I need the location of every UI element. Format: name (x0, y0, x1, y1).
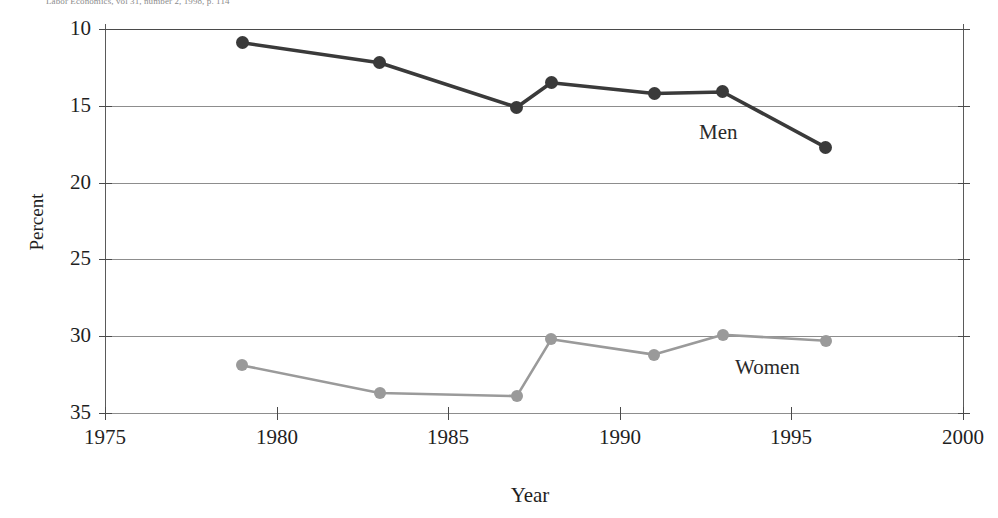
x-tick-mark (448, 407, 449, 420)
y-tick-mark-right (958, 259, 970, 260)
series-annotation-men: Men (699, 121, 738, 144)
y-tick-label: 25 (51, 248, 91, 269)
source-caption: Labor Economics, vol 31, number 2, 1998,… (46, 0, 230, 6)
y-tick-mark (99, 106, 112, 107)
data-point-men (716, 85, 729, 98)
data-point-women (820, 335, 832, 347)
data-point-men (648, 87, 661, 100)
x-tick-label: 1995 (746, 425, 836, 449)
data-point-women (374, 387, 386, 399)
gridline (105, 259, 963, 260)
x-tick-label: 1990 (575, 425, 665, 449)
y-tick-mark (99, 29, 112, 30)
y-tick-label: 30 (51, 325, 91, 346)
y-axis-title: Percent (27, 167, 47, 277)
data-point-women (717, 329, 729, 341)
data-point-women (545, 333, 557, 345)
x-axis-title: Year (0, 483, 998, 507)
data-point-men (236, 36, 249, 49)
gridline (105, 336, 963, 337)
y-tick-mark-right (958, 413, 970, 414)
gridline (105, 183, 963, 184)
y-axis-right-line (963, 24, 964, 418)
y-tick-mark-right (958, 106, 970, 107)
gridline (105, 29, 963, 30)
x-tick-label: 1980 (232, 425, 322, 449)
x-tick-mark (620, 407, 621, 420)
y-tick-mark (99, 336, 112, 337)
data-point-men (373, 56, 386, 69)
y-tick-mark-right (958, 183, 970, 184)
x-tick-mark (105, 407, 106, 420)
data-point-women (511, 390, 523, 402)
x-tick-label: 1975 (60, 425, 150, 449)
data-point-women (236, 359, 248, 371)
data-point-men (545, 76, 558, 89)
y-tick-mark-right (958, 336, 970, 337)
y-tick-label: 10 (51, 18, 91, 39)
x-tick-label: 2000 (918, 425, 998, 449)
y-tick-mark (99, 259, 112, 260)
x-tick-mark (963, 407, 964, 420)
data-point-men (819, 141, 832, 154)
data-point-women (648, 349, 660, 361)
x-tick-mark (277, 407, 278, 420)
chart-figure: Labor Economics, vol 31, number 2, 1998,… (0, 0, 998, 518)
x-tick-label: 1985 (403, 425, 493, 449)
y-tick-label: 15 (51, 95, 91, 116)
y-tick-mark (99, 183, 112, 184)
y-axis-line (105, 24, 106, 418)
series-annotation-women: Women (735, 356, 800, 379)
x-tick-mark (791, 407, 792, 420)
y-tick-label: 20 (51, 172, 91, 193)
gridline (105, 106, 963, 107)
data-point-men (510, 101, 523, 114)
series-line-men (242, 43, 825, 148)
y-tick-label: 35 (51, 402, 91, 423)
gridline (105, 413, 963, 414)
y-tick-mark-right (958, 29, 970, 30)
